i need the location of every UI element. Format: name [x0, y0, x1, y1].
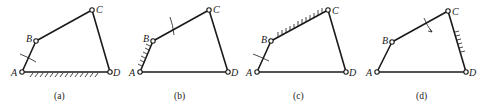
- four-bar-linkage-figure: A B C D (a) A B C D (b): [0, 0, 484, 108]
- caption-d: (d): [416, 91, 427, 102]
- label-b: B: [26, 33, 32, 44]
- joint-d: [464, 70, 468, 74]
- joint-c: [326, 8, 330, 12]
- panel-c: A B C D (c): [245, 5, 357, 102]
- label-c: C: [332, 5, 339, 16]
- ground-hatch-icon: [278, 8, 322, 37]
- rotation-arrow-icon: [170, 17, 174, 35]
- joint-b: [269, 39, 273, 43]
- joint-a: [255, 70, 259, 74]
- caption-a: (a): [54, 91, 65, 102]
- joint-a: [20, 70, 24, 74]
- joint-d: [226, 70, 230, 74]
- link-bc: [36, 10, 92, 41]
- rotation-arrow-icon: [253, 54, 269, 61]
- link-bc-fixed: [271, 10, 328, 41]
- arrow-head-icon: [428, 29, 432, 32]
- ground-hatch-icon: [30, 73, 98, 77]
- label-c: C: [452, 6, 459, 17]
- joint-d: [108, 70, 112, 74]
- link-bc: [392, 11, 448, 42]
- caption-b: (b): [174, 91, 185, 102]
- joint-b: [34, 39, 38, 43]
- label-a: A: [10, 67, 18, 78]
- label-d: D: [348, 67, 357, 78]
- joint-b: [151, 39, 155, 43]
- link-ab: [377, 42, 392, 72]
- label-a: A: [365, 67, 373, 78]
- joint-b: [390, 40, 394, 44]
- link-cd: [92, 10, 110, 72]
- link-bc: [153, 10, 209, 41]
- joint-c: [207, 8, 211, 12]
- link-ab: [22, 41, 36, 72]
- panel-d: A B C D (d): [365, 6, 477, 102]
- label-c: C: [96, 4, 103, 15]
- caption-c: (c): [293, 91, 304, 102]
- label-b: B: [382, 35, 388, 46]
- joint-a: [375, 70, 379, 74]
- link-cd: [209, 10, 228, 72]
- label-a: A: [245, 67, 253, 78]
- panel-a: A B C D (a): [10, 4, 121, 102]
- joint-a: [138, 70, 142, 74]
- label-b: B: [261, 34, 267, 45]
- joint-d: [344, 70, 348, 74]
- link-cd-fixed: [448, 11, 466, 72]
- label-b: B: [143, 33, 149, 44]
- label-d: D: [468, 67, 477, 78]
- label-d: D: [230, 67, 239, 78]
- joint-c: [446, 9, 450, 13]
- label-d: D: [112, 67, 121, 78]
- label-a: A: [128, 67, 136, 78]
- joint-c: [90, 8, 94, 12]
- label-c: C: [213, 4, 220, 15]
- link-cd: [328, 10, 346, 72]
- panel-b: A B C D (b): [128, 4, 239, 102]
